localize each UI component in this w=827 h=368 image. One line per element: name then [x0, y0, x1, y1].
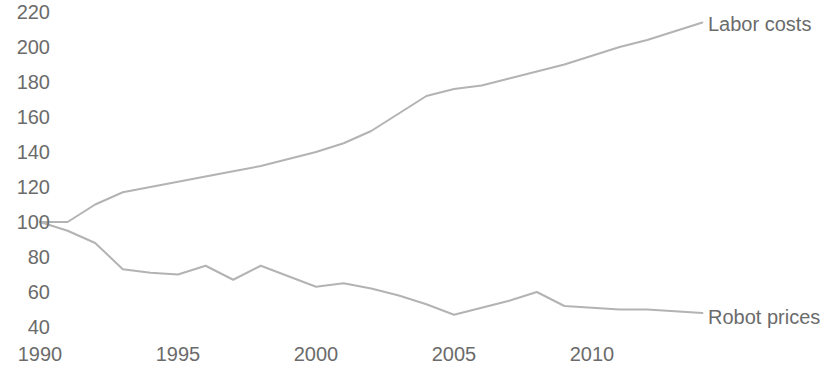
y-axis-tick-140: 140 [0, 142, 50, 162]
x-axis-tick-2000: 2000 [276, 344, 356, 364]
y-axis-tick-100: 100 [0, 212, 50, 232]
x-axis-tick-1990: 1990 [0, 344, 80, 364]
y-axis-tick-160: 160 [0, 107, 50, 127]
y-axis-tick-80: 80 [0, 247, 50, 267]
x-axis-tick-2005: 2005 [414, 344, 494, 364]
y-axis-tick-120: 120 [0, 177, 50, 197]
y-axis-tick-40: 40 [0, 317, 50, 337]
series-label-robot-prices: Robot prices [708, 307, 820, 327]
series-line-robot-prices [40, 222, 702, 315]
y-axis-tick-180: 180 [0, 72, 50, 92]
x-axis-tick-2010: 2010 [552, 344, 632, 364]
series-label-labor-costs: Labor costs [708, 14, 811, 34]
y-axis-tick-200: 200 [0, 37, 50, 57]
x-axis-tick-1995: 1995 [138, 344, 218, 364]
y-axis-tick-60: 60 [0, 282, 50, 302]
series-line-labor-costs [40, 23, 702, 223]
chart-plot-area [0, 0, 827, 368]
y-axis-tick-220: 220 [0, 2, 50, 22]
chart-container: 220200180160140120100806040 199019952000… [0, 0, 827, 368]
